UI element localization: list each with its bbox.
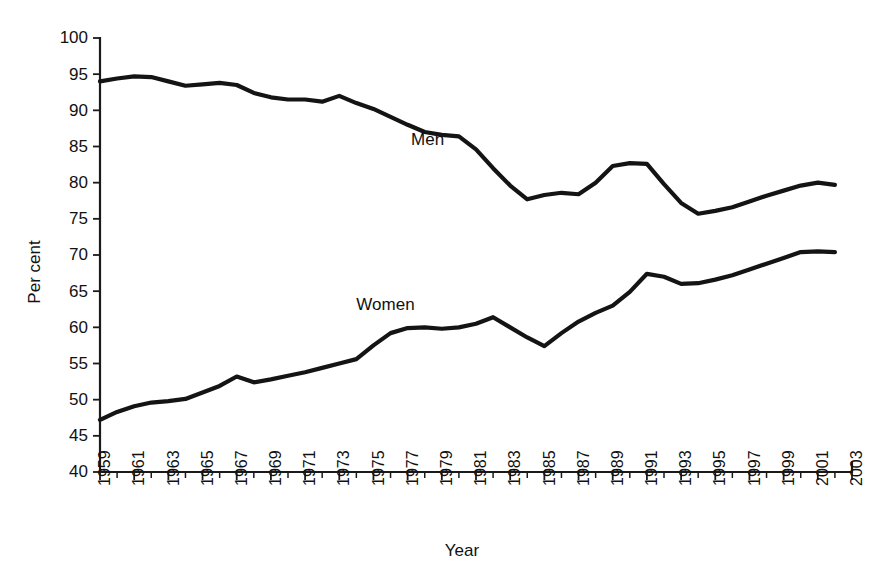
x-axis-tick-label: 1961 <box>130 450 147 486</box>
x-axis-tick-label: 1985 <box>541 450 558 486</box>
y-axis-tick-label: 85 <box>69 137 88 156</box>
x-axis-tick-label: 1999 <box>780 450 797 486</box>
y-axis-tick-label: 75 <box>69 209 88 228</box>
x-axis-tick-label: 2003 <box>848 450 865 486</box>
chart-container: 404550556065707580859095100 195919611963… <box>0 0 896 577</box>
line-chart: 404550556065707580859095100 195919611963… <box>0 0 896 577</box>
x-axis-tick-label: 1995 <box>711 450 728 486</box>
y-axis-tick-label: 60 <box>69 318 88 337</box>
x-axis-tick-label: 2001 <box>814 450 831 486</box>
series-label-men: Men <box>411 130 444 149</box>
x-axis-tick-label: 1973 <box>335 450 352 486</box>
x-axis-tick-label: 1991 <box>643 450 660 486</box>
y-axis-title: Per cent <box>25 240 44 304</box>
y-axis-tick-label: 100 <box>60 28 88 47</box>
x-axis-tick-label: 1981 <box>472 450 489 486</box>
x-axis-tick-label: 1979 <box>438 450 455 486</box>
y-axis-tick-label: 95 <box>69 65 88 84</box>
y-axis: 404550556065707580859095100 <box>60 28 100 481</box>
x-axis-tick-label: 1975 <box>370 450 387 486</box>
y-axis-tick-label: 45 <box>69 426 88 445</box>
x-axis-tick-label: 1967 <box>233 450 250 486</box>
series-label-women: Women <box>356 295 414 314</box>
y-axis-tick-label: 90 <box>69 101 88 120</box>
series-line-men <box>100 76 835 213</box>
y-axis-tick-label: 80 <box>69 173 88 192</box>
x-axis-tick-label: 1965 <box>199 450 216 486</box>
x-axis-tick-label: 1983 <box>506 450 523 486</box>
x-axis: 1959196119631965196719691971197319751977… <box>96 450 865 486</box>
x-axis-tick-label: 1987 <box>575 450 592 486</box>
y-axis-tick-label: 40 <box>69 462 88 481</box>
x-axis-tick-label: 1997 <box>746 450 763 486</box>
x-axis-tick-label: 1963 <box>165 450 182 486</box>
series-line-women <box>100 251 835 420</box>
x-axis-tick-label: 1971 <box>301 450 318 486</box>
y-axis-tick-label: 70 <box>69 245 88 264</box>
x-axis-tick-label: 1959 <box>96 450 113 486</box>
y-axis-tick-label: 55 <box>69 354 88 373</box>
x-axis-tick-label: 1977 <box>404 450 421 486</box>
data-series-group <box>100 76 835 420</box>
y-axis-tick-label: 50 <box>69 390 88 409</box>
series-annotations: MenWomen <box>356 130 444 314</box>
x-axis-title: Year <box>445 541 480 560</box>
x-axis-tick-label: 1989 <box>609 450 626 486</box>
x-axis-tick-label: 1969 <box>267 450 284 486</box>
y-axis-tick-label: 65 <box>69 282 88 301</box>
x-axis-tick-label: 1993 <box>677 450 694 486</box>
